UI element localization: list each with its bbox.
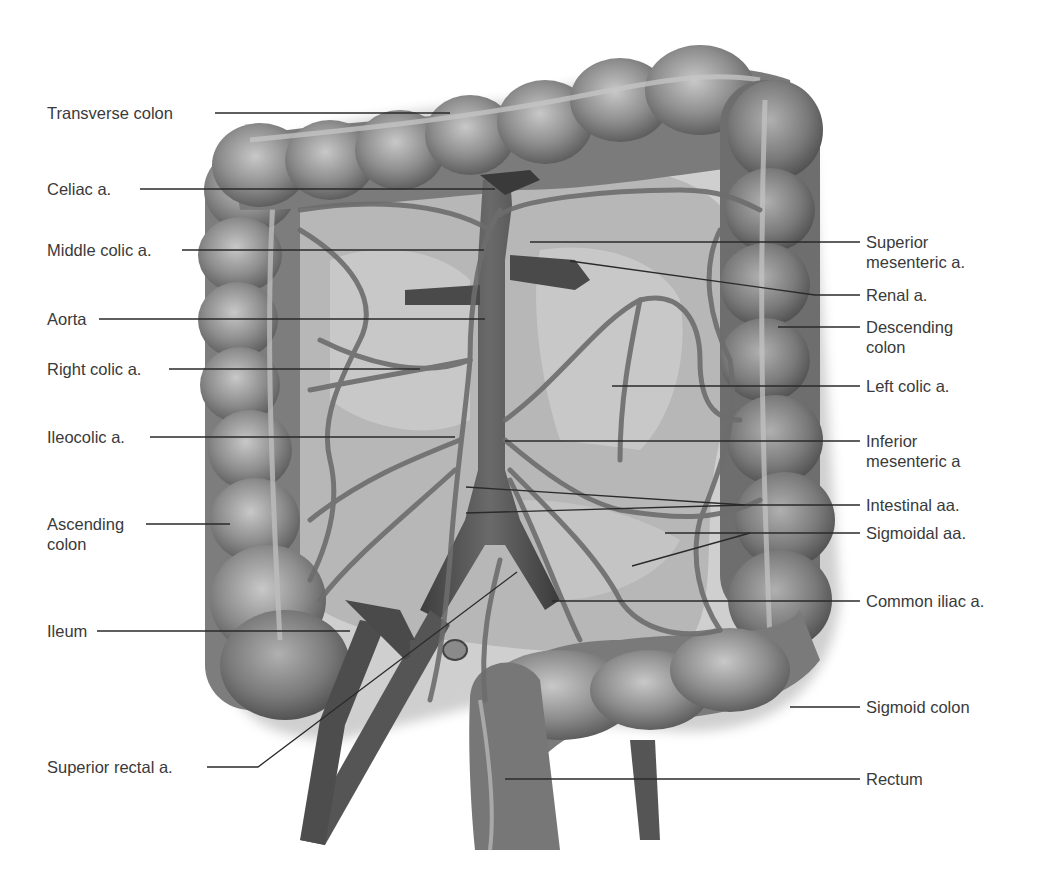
label-ascending-colon-line2: colon — [47, 534, 124, 554]
label-superior-mesenteric-line2: mesenteric a. — [866, 252, 965, 272]
label-transverse-colon: Transverse colon — [47, 103, 173, 123]
label-left-colic-a: Left colic a. — [866, 376, 949, 396]
label-sigmoid-colon: Sigmoid colon — [866, 697, 970, 717]
colon-arterial-supply-diagram: Transverse colon Celiac a. Middle colic … — [0, 0, 1050, 878]
label-ascending-colon: Ascending colon — [47, 514, 124, 554]
label-inferior-mesenteric-line1: Inferior — [866, 431, 960, 451]
label-descending-colon: Descending colon — [866, 317, 953, 357]
label-superior-rectal-a: Superior rectal a. — [47, 757, 173, 777]
label-inferior-mesenteric-a: Inferior mesenteric a — [866, 431, 960, 471]
label-aorta: Aorta — [47, 309, 86, 329]
label-ileocolic-a: Ileocolic a. — [47, 427, 125, 447]
label-descending-colon-line1: Descending — [866, 317, 953, 337]
label-right-colic-a: Right colic a. — [47, 359, 141, 379]
label-ileum: Ileum — [47, 621, 87, 641]
label-ascending-colon-line1: Ascending — [47, 514, 124, 534]
label-superior-mesenteric-a: Superior mesenteric a. — [866, 232, 965, 272]
label-common-iliac-a: Common iliac a. — [866, 591, 984, 611]
label-intestinal-aa: Intestinal aa. — [866, 495, 960, 515]
label-celiac-a: Celiac a. — [47, 179, 111, 199]
descending-colon-shape — [720, 80, 835, 650]
label-superior-mesenteric-line1: Superior — [866, 232, 965, 252]
label-descending-colon-line2: colon — [866, 337, 953, 357]
label-inferior-mesenteric-line2: mesenteric a — [866, 451, 960, 471]
label-rectum: Rectum — [866, 769, 923, 789]
label-renal-a: Renal a. — [866, 285, 927, 305]
label-sigmoidal-aa: Sigmoidal aa. — [866, 523, 966, 543]
label-middle-colic-a: Middle colic a. — [47, 240, 152, 260]
